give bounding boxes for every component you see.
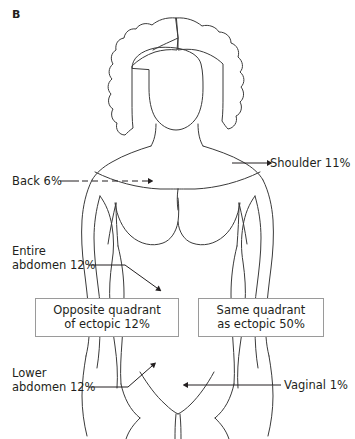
breast-right-crease-b: [237, 203, 239, 246]
label-back: Back 6%: [12, 174, 62, 188]
label-entire-abdomen: Entire abdomen 12%: [12, 244, 95, 272]
callout-same-quadrant: Same quadrant as ectopic 50%: [198, 298, 324, 337]
label-vaginal: Vaginal 1%: [284, 378, 348, 392]
leg-gap-right: [180, 414, 181, 439]
leg-gap-left: [175, 414, 176, 439]
neck-right: [198, 124, 203, 146]
groin-right-fold: [178, 372, 214, 414]
torso-right-side: [238, 196, 255, 388]
clavicle-line-right: [178, 172, 260, 189]
ectopic-pain-location-figure: B: [0, 0, 355, 439]
breast-left: [115, 198, 179, 245]
thigh-left-outer: [126, 418, 140, 439]
label-shoulder: Shoulder 11%: [270, 156, 350, 170]
hair-outline: [108, 18, 178, 135]
label-lower-abdomen: Lower abdomen 12%: [12, 366, 95, 394]
groin-left-fold: [140, 372, 178, 414]
face-outline: [132, 47, 203, 130]
breast-right: [178, 203, 240, 245]
thigh-right-outer: [215, 418, 229, 439]
breast-left-crease-b: [116, 203, 118, 246]
torso-left-side: [100, 196, 117, 388]
hip-left: [121, 384, 140, 418]
breast-left-crease-a: [108, 203, 116, 244]
arm-right-forearm: [268, 356, 273, 436]
neck-left: [151, 124, 156, 146]
hip-right: [215, 384, 234, 418]
hair-outline-right: [176, 18, 244, 129]
breast-right-crease-a: [239, 203, 247, 244]
callout-opposite-quadrant: Opposite quadrant of ectopic 12%: [35, 298, 179, 337]
